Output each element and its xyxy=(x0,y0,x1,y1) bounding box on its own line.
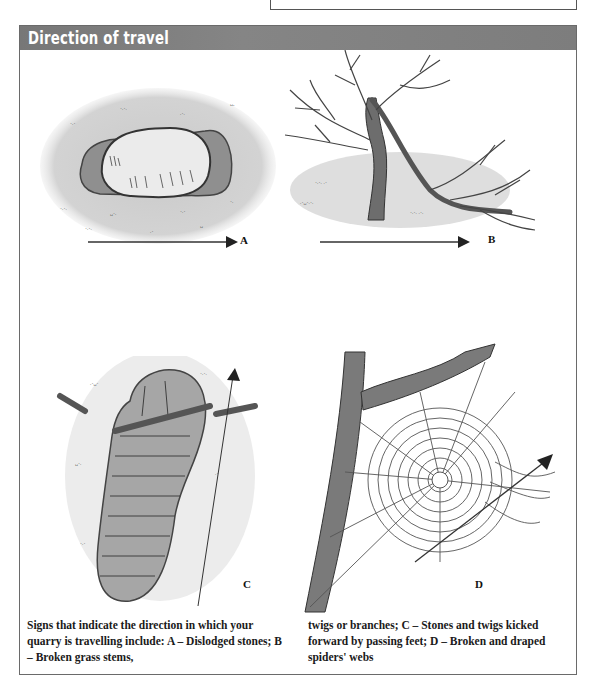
page-title: Direction of travel xyxy=(28,27,169,49)
svg-text:·∙·∙: ·∙·∙ xyxy=(60,206,67,212)
svg-text:∙·ᴗ·∙·∙: ∙·ᴗ·∙·∙ xyxy=(300,200,314,206)
caption-left: Signs that indicate the direction in whi… xyxy=(27,617,289,665)
svg-text:·∙·: ·∙· xyxy=(80,541,86,547)
svg-text:ᴗ.: ᴗ. xyxy=(230,101,235,107)
svg-text:ᴗ: ᴗ xyxy=(200,223,203,229)
panel-d: D xyxy=(285,332,570,617)
svg-text:·∙·∙: ·∙·∙ xyxy=(200,371,207,377)
svg-text:ᴗ·∙: ᴗ·∙ xyxy=(75,461,82,467)
svg-text:·∙·: ·∙· xyxy=(70,121,76,127)
spider-web-illustration xyxy=(285,332,570,617)
svg-text:·∙·: ·∙· xyxy=(180,209,186,215)
caption-right: twigs or branches; C – Stones and twigs … xyxy=(308,617,570,665)
previous-box-fragment xyxy=(270,0,577,10)
svg-text:·∙·∙: ·∙·∙ xyxy=(85,226,92,232)
svg-text:·∙·∙ ∙·: ·∙·∙ ∙· xyxy=(315,180,327,186)
stone-illustration: ·∙··∙·∙∙·∙ᴗ. ·∙·∙ᴗ·∙·∙··∙ ·∙·∙∙·ᴗ xyxy=(30,86,280,296)
panel-label-b: B xyxy=(488,233,495,245)
header-bar: Direction of travel xyxy=(20,26,576,50)
panel-c: ∙·ᴗ··∙·∙ᴗ·∙∙··∙· C xyxy=(50,356,280,606)
svg-text:·∙: ·∙ xyxy=(230,199,234,205)
panel-label-d: D xyxy=(475,578,483,590)
footprint-illustration: ∙·ᴗ··∙·∙ᴗ·∙∙··∙· xyxy=(50,356,280,606)
panel-label-a: A xyxy=(240,234,248,246)
svg-text:·∙·∙: ·∙·∙ xyxy=(120,106,127,112)
svg-text:∙·: ∙· xyxy=(150,229,154,235)
svg-text:ᴗ·∙: ᴗ·∙ xyxy=(110,211,117,217)
panel-a: ·∙··∙·∙∙·∙ᴗ. ·∙·∙ᴗ·∙·∙··∙ ·∙·∙∙·ᴗ A xyxy=(30,86,280,296)
panel-label-c: C xyxy=(243,578,251,590)
svg-text:∙·∙: ∙·∙ xyxy=(180,111,185,117)
broken-branch-illustration: ·∙·∙ ∙·∙·ᴗ·∙·∙·∙·∙ ∙·∙ xyxy=(280,50,570,280)
svg-text:∙·ᴗ·: ∙·ᴗ· xyxy=(90,381,99,387)
svg-text:·∙·∙ ∙·∙: ·∙·∙ ∙·∙ xyxy=(410,210,424,216)
panel-b: ·∙·∙ ∙·∙·ᴗ·∙·∙·∙·∙ ∙·∙ B xyxy=(280,50,570,280)
figure-frame: Direction of travel ·∙··∙·∙∙·∙ᴗ. ·∙·∙ᴗ·∙… xyxy=(19,25,577,675)
